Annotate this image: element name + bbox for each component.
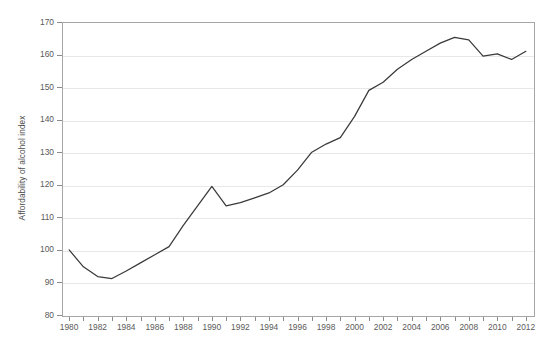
- y-tick-label: 150: [30, 83, 54, 91]
- y-tick-label: 110: [30, 213, 54, 221]
- y-tick-label: 100: [30, 245, 54, 253]
- y-tick-label: 130: [30, 148, 54, 156]
- y-tick-label: 80: [30, 311, 54, 319]
- y-tick-label: 140: [30, 115, 54, 123]
- x-tick-label: 2012: [506, 323, 546, 331]
- y-tick-label: 120: [30, 180, 54, 188]
- affordability-series-line: [69, 37, 526, 278]
- affordability-of-alcohol-line-chart: Affordability of alcohol index 809010011…: [0, 0, 559, 340]
- y-tick-label: 170: [30, 18, 54, 26]
- y-tick-label: 90: [30, 278, 54, 286]
- y-tick-label: 160: [30, 50, 54, 58]
- series-layer: [62, 22, 533, 315]
